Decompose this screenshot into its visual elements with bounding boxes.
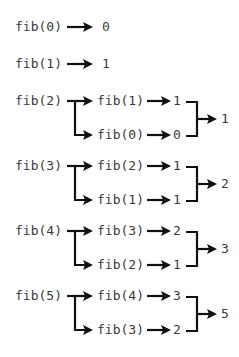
result-value: 5	[221, 306, 229, 321]
arrow-icon	[147, 226, 171, 236]
fibonacci-diagram: fib(0)0fib(1)1fib(2)fib(1)fib(0)101fib(3…	[0, 0, 239, 357]
branch-line	[75, 231, 85, 265]
merge-bracket	[186, 167, 197, 201]
merge-bracket	[186, 232, 197, 266]
call-label: fib(0)	[15, 19, 62, 34]
sub-result-value: 2	[173, 223, 181, 238]
sub-call-label: fib(1)	[97, 192, 144, 207]
merge-bracket	[186, 102, 197, 136]
call-label: fib(5)	[15, 288, 62, 303]
arrow-icon	[147, 195, 171, 205]
sub-result-value: 1	[173, 158, 181, 173]
recursive-case-group: fib(2)fib(1)fib(0)101	[15, 93, 229, 142]
arrow-icon	[67, 59, 93, 69]
result-value: 0	[102, 19, 110, 34]
arrow-icon	[147, 130, 171, 140]
recursive-case-group: fib(5)fib(4)fib(3)325	[15, 288, 229, 337]
recursive-case-group: fib(3)fib(2)fib(1)112	[15, 158, 229, 207]
sub-call-label: fib(1)	[97, 93, 144, 108]
result-value: 2	[221, 176, 229, 191]
branch-line	[75, 166, 85, 200]
sub-call-label: fib(2)	[97, 257, 144, 272]
recursive-case-group: fib(4)fib(3)fib(2)213	[15, 223, 229, 272]
diagram-canvas: fib(0)0fib(1)1fib(2)fib(1)fib(0)101fib(3…	[0, 0, 239, 357]
sub-result-value: 1	[173, 192, 181, 207]
arrow-icon	[147, 291, 171, 301]
sub-result-value: 3	[173, 288, 181, 303]
arrow-icon	[197, 179, 217, 189]
sub-call-label: fib(3)	[97, 223, 144, 238]
sub-call-label: fib(0)	[97, 127, 144, 142]
branch-line	[75, 101, 85, 135]
arrow-icon	[197, 244, 217, 254]
result-value: 1	[102, 56, 110, 71]
sub-call-label: fib(4)	[97, 288, 144, 303]
sub-call-label: fib(2)	[97, 158, 144, 173]
base-case-row: fib(0)0	[15, 19, 110, 34]
result-value: 3	[221, 241, 229, 256]
sub-result-value: 1	[173, 93, 181, 108]
sub-result-value: 0	[173, 127, 181, 142]
call-label: fib(3)	[15, 158, 62, 173]
sub-result-value: 2	[173, 322, 181, 337]
result-value: 1	[221, 111, 229, 126]
merge-bracket	[186, 297, 197, 331]
arrow-icon	[67, 22, 93, 32]
arrow-icon	[197, 309, 217, 319]
call-label: fib(1)	[15, 56, 62, 71]
sub-call-label: fib(3)	[97, 322, 144, 337]
arrow-icon	[147, 96, 171, 106]
arrow-icon	[197, 114, 217, 124]
sub-result-value: 1	[173, 257, 181, 272]
call-label: fib(2)	[15, 93, 62, 108]
branch-line	[75, 296, 85, 330]
arrow-icon	[147, 325, 171, 335]
arrow-icon	[147, 161, 171, 171]
base-case-row: fib(1)1	[15, 56, 110, 71]
call-label: fib(4)	[15, 223, 62, 238]
arrow-icon	[147, 260, 171, 270]
